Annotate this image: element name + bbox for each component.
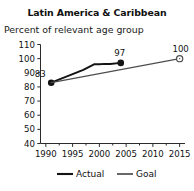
data-point-marker-actual [117,60,124,67]
y-axis-tick-label: 60 [24,110,35,120]
data-value-label: 97 [114,48,125,58]
legend-label-goal[interactable]: Goal [136,169,157,179]
series-line-actual [51,63,121,83]
y-axis-tick-label: 80 [24,82,35,92]
y-axis: 110100908070605040 [19,40,41,149]
y-axis-tick-label: 40 [24,139,35,149]
x-axis-tick-label: 2000 [88,149,110,159]
marker-center-dot [179,58,180,59]
y-axis-tick-label: 110 [19,40,35,50]
chart-container: Latin America & Caribbean Percent of rel… [0,0,194,191]
y-axis-tick-label: 100 [19,54,35,64]
data-value-label: 100 [172,44,188,54]
legend-label-actual[interactable]: Actual [76,169,104,179]
y-axis-tick-label: 90 [24,68,35,78]
chart-legend: ActualGoal [57,169,157,179]
chart-plot-area: 110100908070605040 199019952000200520102… [0,0,194,191]
x-axis-tick-label: 2005 [115,149,137,159]
x-axis-tick-label: 1990 [35,149,57,159]
x-axis-tick-label: 2015 [169,149,191,159]
y-axis-tick-label: 50 [24,124,35,134]
x-axis-tick-label: 1995 [62,149,84,159]
data-value-label: 83 [35,69,46,79]
data-series-group [48,56,183,86]
x-axis-tick-label: 2010 [142,149,164,159]
y-axis-tick-label: 70 [24,96,35,106]
series-line-goal [51,59,179,83]
x-axis: 199019952000200520102015 [35,144,191,159]
